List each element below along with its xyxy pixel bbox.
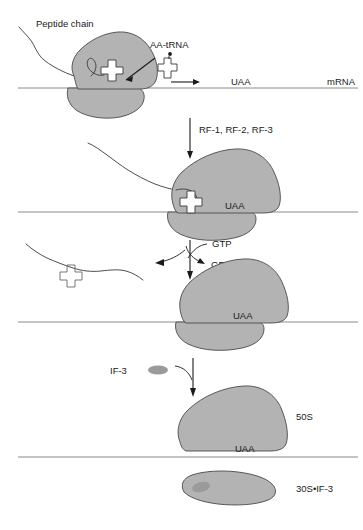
panel-4: 50S UAA 30S•IF-3 [18, 386, 358, 505]
gtp-input-curve [188, 244, 207, 258]
released-peptide-chain [26, 244, 143, 280]
release-factor-arrowhead [187, 151, 193, 159]
stop-codon-label-panel4: UAA [235, 443, 255, 454]
stop-codon-label-panel2: UAA [225, 200, 245, 211]
peptide-chain-path-panel2 [88, 143, 176, 190]
mrna-label: mRNA [327, 76, 356, 87]
peptide-release-arrowhead [155, 259, 164, 266]
aa-trna-label: AA-tRNA [150, 39, 189, 50]
dissociation-arrowhead [190, 388, 196, 397]
gtp-label: GTP [212, 238, 232, 249]
translocation-arrowhead [193, 79, 200, 85]
panel-3: UAA [18, 244, 358, 350]
small-subunit-panel2 [168, 212, 257, 240]
step-arrow-4-group: IF-3 [110, 358, 196, 397]
large-subunit-panel4 [178, 386, 287, 451]
stop-codon-label-panel3: UAA [233, 310, 253, 321]
translation-termination-figure: Peptide chain AA-tRNA UAA mRNA RF-1, RF-… [0, 0, 363, 530]
gtp-step-arrowhead [187, 271, 193, 280]
panel-1: Peptide chain AA-tRNA UAA mRNA [18, 18, 358, 118]
released-trna-icon [60, 265, 82, 287]
small-subunit-label: 30S•IF-3 [296, 483, 333, 494]
if3-binding-curve [175, 366, 192, 380]
large-subunit-label: 50S [296, 411, 313, 422]
peptide-chain-label: Peptide chain [36, 18, 94, 29]
release-factors-label: RF-1, RF-2, RF-3 [199, 124, 273, 135]
small-subunit-panel1 [67, 88, 144, 118]
aa-trna-icon-panel1 [158, 58, 177, 78]
panel-2: UAA [18, 143, 358, 240]
amino-acid-dot-panel1 [168, 52, 172, 56]
small-subunit-panel3 [176, 322, 265, 350]
stop-codon-label-panel1: UAA [231, 76, 251, 87]
if3-particle [148, 366, 168, 375]
if3-label: IF-3 [110, 365, 127, 376]
gdp-output-curve [186, 246, 201, 262]
